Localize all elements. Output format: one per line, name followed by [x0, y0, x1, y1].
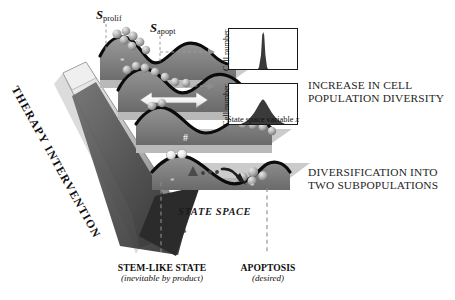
- increase-diversity-caption: INCREASE IN CELL POPULATION DIVERSITY: [308, 79, 444, 106]
- stem-like-state-subtitle: (inevitable by product): [108, 273, 216, 284]
- s-apopt-label: Sapopt: [150, 21, 176, 37]
- diversification-line-1: DIVERSIFICATION INTO: [308, 166, 438, 179]
- s-apopt-subscript: apopt: [157, 27, 176, 36]
- s-apopt-symbol: S: [150, 21, 157, 35]
- marker-star-4b: *: [250, 181, 255, 191]
- increase-diversity-line-2: POPULATION DIVERSITY: [308, 92, 444, 105]
- x-axis-label-var: x: [296, 115, 300, 124]
- x-axis-label-prefix: State space variable: [227, 115, 296, 124]
- diversification-line-2: TWO SUBPOPULATIONS: [308, 179, 438, 192]
- marker-star-4: *: [170, 176, 175, 186]
- increase-diversity-line-1: INCREASE IN CELL: [308, 79, 444, 92]
- state-space-label: STATE SPACE: [178, 206, 251, 218]
- diversification-caption: DIVERSIFICATION INTO TWO SUBPOPULATIONS: [308, 166, 438, 193]
- apoptosis-subtitle: (desired): [222, 273, 314, 284]
- histogram-panel-narrow: [228, 28, 298, 70]
- histogram-1-y-axis-label: Cell number: [222, 29, 232, 71]
- s-prolif-symbol: S: [96, 8, 103, 22]
- s-prolif-subscript: prolif: [103, 14, 122, 23]
- stem-like-state-title: STEM-LIKE STATE: [108, 262, 216, 273]
- histogram-x-axis-label: State space variable x: [227, 115, 299, 125]
- narrow-distribution-plot: [229, 29, 298, 70]
- marker-hash-3: #: [183, 132, 188, 143]
- apoptosis-title: APOPTOSIS: [222, 262, 314, 273]
- apoptosis-caption: APOPTOSIS (desired): [222, 262, 314, 284]
- figure-canvas: *: [0, 0, 455, 300]
- landscape-tier-4: * *: [152, 149, 310, 191]
- s-prolif-label: Sprolif: [96, 8, 122, 24]
- marker-star-1: *: [120, 56, 125, 66]
- stem-like-state-caption: STEM-LIKE STATE (inevitable by product): [108, 262, 216, 284]
